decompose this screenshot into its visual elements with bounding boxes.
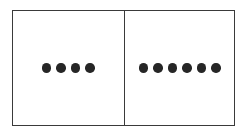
left-dot-row	[42, 63, 95, 73]
dot	[153, 63, 163, 73]
left-panel	[12, 10, 124, 126]
dot	[42, 63, 52, 73]
dot	[71, 63, 81, 73]
dot	[211, 63, 221, 73]
dot	[168, 63, 178, 73]
dot	[85, 63, 95, 73]
dot	[182, 63, 192, 73]
right-dot-row	[139, 63, 221, 73]
dot	[197, 63, 207, 73]
dot	[139, 63, 149, 73]
right-panel	[124, 10, 235, 126]
dot	[56, 63, 66, 73]
